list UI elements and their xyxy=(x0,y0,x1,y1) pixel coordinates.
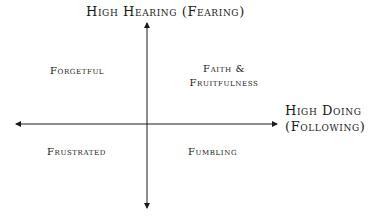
quadrant-top-left-label: Forgetful xyxy=(50,66,104,76)
vertical-axis-label: High Hearing (Fearing) xyxy=(86,5,245,18)
quadrant-bottom-right-label: Fumbling xyxy=(188,147,237,157)
quadrant-top-right-label-line1: Faith & xyxy=(194,64,254,74)
horizontal-axis-label-line1: High Doing xyxy=(285,104,361,117)
horizontal-axis-label-line2: (Following) xyxy=(285,120,365,133)
quadrant-top-right-label-line2: Fruitfulness xyxy=(179,78,269,88)
quadrant-bottom-left-label: Frustrated xyxy=(47,147,106,157)
